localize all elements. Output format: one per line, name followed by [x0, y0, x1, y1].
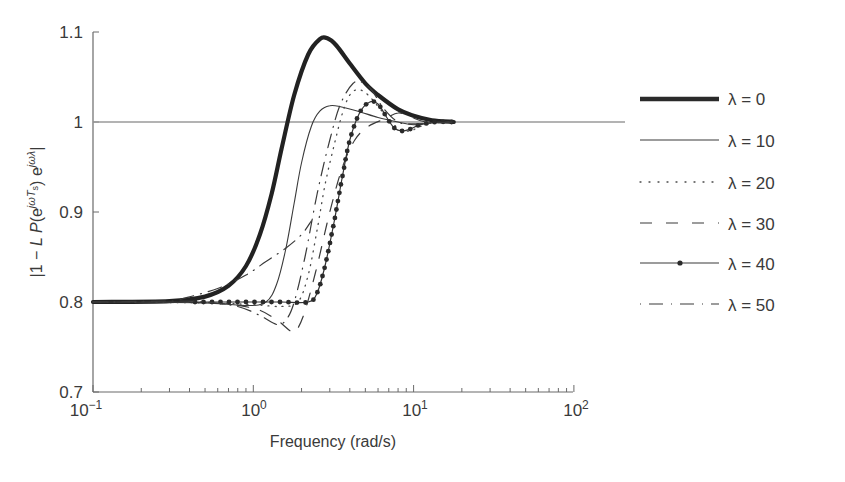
series-marker-dot [432, 120, 437, 125]
y-tick-label: 0.8 [59, 293, 83, 312]
series-marker-dot [328, 241, 333, 246]
series-marker-dot [235, 300, 240, 305]
series-marker-dot [261, 300, 266, 305]
series-line-thick-solid [93, 37, 454, 302]
plot-series [93, 37, 454, 332]
series-marker-dot [400, 129, 405, 134]
legend-label: λ = 50 [728, 296, 775, 315]
series-marker-dot [340, 174, 345, 179]
legend-label: λ = 0 [728, 90, 765, 109]
x-axis-label: Frequency (rad/s) [270, 433, 396, 450]
legend-item-lambda-20: λ = 20 [640, 174, 775, 193]
series-marker-dot [347, 140, 352, 145]
series-marker-dot [424, 121, 429, 126]
series-marker-dot [408, 127, 413, 132]
series-marker-dot [334, 207, 339, 212]
x-axis-ticks [93, 385, 574, 392]
series-marker-dot [286, 300, 291, 305]
legend-marker-dot [677, 260, 682, 265]
y-tick-label: 1.1 [59, 23, 83, 42]
x-tick-label: 10−1 [70, 398, 103, 420]
legend-item-lambda-0: λ = 0 [640, 90, 765, 109]
legend: λ = 0 λ = 10 λ = 20 λ = 30 λ = 40 λ = 50 [640, 90, 775, 315]
legend-item-lambda-30: λ = 30 [640, 215, 775, 234]
y-tick-labels: 0.7 0.8 0.9 1 1.1 [59, 23, 83, 402]
chart-canvas: 0.7 0.8 0.9 1 1.1 10−1 100 101 102 Frequ… [0, 0, 845, 482]
series-marker-dot [244, 300, 249, 305]
x-tick-label: 100 [241, 398, 267, 420]
series-marker-dot [336, 199, 341, 204]
axes [93, 32, 574, 392]
series-marker-dot [303, 300, 308, 305]
series-marker-dot [364, 102, 369, 107]
series-marker-dot [324, 257, 329, 262]
y-tick-label: 1 [74, 113, 83, 132]
series-marker-dot [342, 165, 347, 170]
x-tick-label: 101 [402, 398, 428, 420]
legend-label: λ = 10 [728, 132, 775, 151]
y-tick-label: 0.7 [59, 383, 83, 402]
series-line-dash-dot [180, 221, 311, 299]
y-axis-ticks [93, 32, 99, 392]
x-tick-labels: 10−1 100 101 102 [70, 398, 589, 420]
series-marker-dot [345, 149, 350, 154]
legend-label: λ = 30 [728, 215, 775, 234]
legend-label: λ = 40 [728, 255, 775, 274]
y-tick-label: 0.9 [59, 203, 83, 222]
series-marker-dot [333, 216, 338, 221]
series-marker-dot [372, 99, 377, 104]
series-marker-dot [326, 249, 331, 254]
legend-label: λ = 20 [728, 174, 775, 193]
series-marker-dot [352, 124, 357, 129]
series-marker-dot [295, 300, 300, 305]
series-marker-dot [278, 300, 283, 305]
series-marker-dot [387, 119, 392, 124]
series-marker-dot [349, 132, 354, 137]
x-tick-label: 102 [563, 398, 589, 420]
series-marker-dot [378, 104, 383, 109]
series-marker-dot [315, 290, 320, 295]
series-marker-dot [329, 232, 334, 237]
series-marker-dot [392, 126, 397, 131]
series-marker-dot [358, 108, 363, 113]
series-marker-dot [318, 282, 323, 287]
series-line-dash-dot [93, 81, 454, 325]
legend-item-lambda-50: λ = 50 [640, 296, 775, 315]
series-marker-dot [311, 297, 316, 302]
series-marker-dot [227, 300, 232, 305]
legend-item-lambda-40: λ = 40 [640, 255, 775, 274]
series-marker-dot [337, 190, 342, 195]
series-line-solid-with-dots [93, 101, 454, 302]
series-marker-dot [193, 300, 198, 305]
y-axis-label: |1 − L P(ejωTs) ejωλ| [25, 147, 45, 278]
series-marker-dot [331, 224, 336, 229]
series-marker-dot [269, 300, 274, 305]
series-marker-dot [355, 116, 360, 121]
legend-item-lambda-10: λ = 10 [640, 132, 775, 151]
series-marker-dot [322, 265, 327, 270]
series-marker-dot [441, 119, 446, 124]
series-line-thin-solid [93, 105, 454, 305]
series-marker-dot [252, 300, 257, 305]
series-marker-dot [320, 274, 325, 279]
series-marker-dot [343, 157, 348, 162]
series-marker-dot [339, 182, 344, 187]
